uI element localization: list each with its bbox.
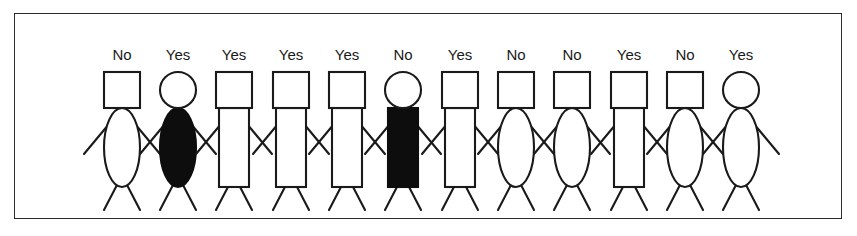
figure-body-rect (332, 108, 362, 187)
stick-figure[interactable]: Yes (422, 46, 498, 210)
figure-body-oval (723, 108, 759, 187)
figure-label: No (112, 46, 131, 63)
figure-body-oval (667, 108, 703, 187)
figure-label: No (562, 46, 581, 63)
figure-head-square (611, 72, 647, 108)
stick-figure[interactable]: Yes (140, 46, 216, 210)
figure-body-oval (104, 108, 140, 187)
figure-head-square (498, 72, 534, 108)
figure-label: No (506, 46, 525, 63)
figure-head-square (104, 72, 140, 108)
figure-label: Yes (222, 46, 246, 63)
stick-figure[interactable]: No (84, 46, 160, 210)
figure-body-oval (554, 108, 590, 187)
stick-figure-row: NoYesYesYesYesNoYesNoNoYesNoYes (15, 14, 843, 220)
stick-figure[interactable]: Yes (591, 46, 667, 210)
figure-head-square (273, 72, 309, 108)
right-leg (576, 183, 590, 210)
figure-head-square (554, 72, 590, 108)
stick-figure[interactable]: No (478, 46, 554, 210)
stick-figure[interactable]: Yes (196, 46, 272, 210)
figure-body-rect (388, 108, 418, 187)
left-leg (723, 183, 737, 210)
left-leg (104, 183, 118, 210)
stick-figure[interactable]: No (534, 46, 610, 210)
figure-head-round (723, 72, 759, 108)
figure-body-rect (445, 108, 475, 187)
figure-label: Yes (617, 46, 641, 63)
figure-label: Yes (166, 46, 190, 63)
figure-label: Yes (448, 46, 472, 63)
figure-head-square (216, 72, 252, 108)
figure-label: Yes (335, 46, 359, 63)
stick-figure[interactable]: No (365, 46, 441, 210)
left-leg (498, 183, 512, 210)
figure-label: Yes (279, 46, 303, 63)
figure-label: No (393, 46, 412, 63)
figure-head-round (385, 72, 421, 108)
figure-head-square (442, 72, 478, 108)
right-leg (745, 183, 759, 210)
stick-figure[interactable]: No (647, 46, 723, 210)
figure-body-oval (160, 108, 196, 187)
left-leg (554, 183, 568, 210)
right-leg (126, 183, 140, 210)
figure-label: Yes (729, 46, 753, 63)
figure-label: No (675, 46, 694, 63)
stick-figure[interactable]: Yes (253, 46, 329, 210)
figure-head-round (160, 72, 196, 108)
right-leg (182, 183, 196, 210)
figure-panel: NoYesYesYesYesNoYesNoNoYesNoYes (14, 13, 842, 219)
figure-body-oval (498, 108, 534, 187)
figure-head-square (667, 72, 703, 108)
figure-body-rect (219, 108, 249, 187)
figure-body-rect (614, 108, 644, 187)
figure-body-rect (276, 108, 306, 187)
right-leg (689, 183, 703, 210)
stick-figure[interactable]: Yes (309, 46, 385, 210)
stick-figure[interactable]: Yes (703, 46, 779, 210)
left-leg (160, 183, 174, 210)
figure-head-square (329, 72, 365, 108)
right-leg (520, 183, 534, 210)
left-leg (667, 183, 681, 210)
